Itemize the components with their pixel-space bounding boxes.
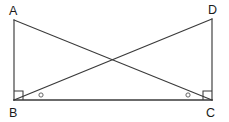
geometry-figure: A D B C <box>0 0 229 122</box>
vertex-label-B: B <box>9 106 17 120</box>
geometry-canvas: A D B C <box>0 0 229 122</box>
angle-mark-circle-C <box>186 93 190 97</box>
vertex-label-C: C <box>206 106 215 120</box>
vertex-label-D: D <box>208 3 217 17</box>
angle-mark-circle-B <box>39 93 43 97</box>
vertex-label-A: A <box>9 4 18 18</box>
